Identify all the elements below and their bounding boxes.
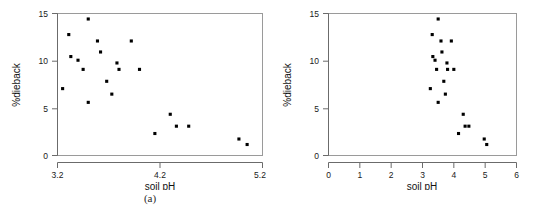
y-axis-title-a: %dieback [11,62,22,106]
data-point [437,17,440,20]
data-point [452,68,455,71]
x-tick-label-4: 4 [451,170,456,180]
x-tick-label-6: 6 [514,170,519,180]
y-tick-label-10: 10 [39,56,49,66]
scatter-figure: 15 10 5 0 3.2 4.2 5.2 soil pH %dieback (… [0,0,542,218]
data-point [76,59,79,62]
data-point [153,132,156,135]
data-point [485,143,488,146]
data-point [467,125,470,128]
y-tick-label-5: 5 [314,104,319,114]
plot-frame-a [58,14,263,156]
y-tick-label-10: 10 [310,56,320,66]
data-point [61,87,64,90]
data-point [433,59,436,62]
data-point [435,68,438,71]
y-tick-label-15: 15 [39,9,49,19]
data-point [130,39,133,42]
y-tick-label-5: 5 [43,104,48,114]
data-point [457,132,460,135]
data-point [117,68,120,71]
y-tick-label-0: 0 [314,151,319,161]
data-point [431,33,434,36]
panel-a: 15 10 5 0 3.2 4.2 5.2 soil pH %dieback (… [0,0,271,218]
panel-b: 15 10 5 0 0123456 soil pH %dieback (b) [271,0,542,218]
x-axis-title-a: soil pH [145,181,176,190]
x-tick-label-5-2: 5.2 [254,170,266,180]
data-point [105,80,108,83]
plot-frame-b [329,14,517,156]
data-point [187,125,190,128]
data-point [67,33,70,36]
x-axis-title-b: soil pH [407,181,438,190]
y-tick-label-15: 15 [310,9,320,19]
y-tick-label-0: 0 [43,151,48,161]
data-point [440,50,443,53]
x-tick-label-3: 3 [420,170,425,180]
data-point [115,61,118,64]
data-point [110,93,113,96]
y-ticks-b [323,14,329,156]
data-point [462,113,465,116]
data-point [429,87,432,90]
data-point [96,39,99,42]
x-tick-label-4-2: 4.2 [154,170,166,180]
data-point [483,137,486,140]
data-point [175,125,178,128]
x-tick-label-3-2: 3.2 [52,170,64,180]
data-point [464,125,467,128]
x-tick-label-2: 2 [389,170,394,180]
data-point [442,80,445,83]
panel-caption-a: (a) [120,192,180,204]
data-point [445,61,448,64]
data-point [446,68,449,71]
data-point [431,55,434,58]
data-points-a [61,17,249,146]
data-point [87,17,90,20]
data-point [99,50,102,53]
x-tick-labels-b: 0123456 [326,170,519,180]
data-point [450,39,453,42]
data-point [138,68,141,71]
data-point [87,101,90,104]
data-point [82,68,85,71]
data-points-b [429,17,489,146]
data-point [169,113,172,116]
x-tick-label-5: 5 [483,170,488,180]
panel-b-plot: 15 10 5 0 0123456 soil pH %dieback [271,0,542,190]
y-axis-title-b: %dieback [282,62,293,106]
data-point [444,93,447,96]
x-ticks-a [58,163,263,169]
data-point [69,55,72,58]
y-ticks-a [52,14,58,156]
data-point [439,39,442,42]
panel-a-plot: 15 10 5 0 3.2 4.2 5.2 soil pH %dieback [0,0,271,190]
data-point [237,137,240,140]
x-tick-label-0: 0 [326,170,331,180]
data-point [246,143,249,146]
x-ticks-b [329,163,517,169]
x-tick-label-1: 1 [357,170,362,180]
data-point [437,101,440,104]
